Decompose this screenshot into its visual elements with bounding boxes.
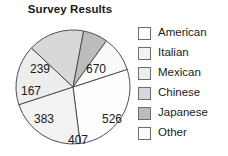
pie-slice-value-italian: 526: [102, 112, 122, 126]
legend-label-japanese: Japanese: [158, 107, 208, 119]
legend-swatch-mexican: [138, 67, 151, 80]
pie-slice-value-mexican: 407: [68, 133, 88, 147]
legend-label-chinese: Chinese: [158, 87, 200, 99]
legend-label-other: Other: [158, 127, 187, 139]
pie-slice-value-other: 239: [30, 62, 50, 76]
legend-swatch-other: [138, 127, 151, 140]
legend-swatch-japanese: [138, 107, 151, 120]
legend-item-other: Other: [138, 123, 228, 143]
legend-item-american: American: [138, 23, 228, 43]
legend-label-italian: Italian: [158, 47, 189, 59]
legend-item-italian: Italian: [138, 43, 228, 63]
chart-title: Survey Results: [0, 3, 140, 15]
legend-swatch-american: [138, 27, 151, 40]
chart-legend: AmericanItalianMexicanChineseJapaneseOth…: [138, 23, 228, 143]
legend-label-mexican: Mexican: [158, 67, 201, 79]
legend-label-american: American: [158, 27, 207, 39]
legend-item-japanese: Japanese: [138, 103, 228, 123]
pie-slice-value-chinese: 383: [34, 112, 54, 126]
pie-svg: 670526407383167239: [0, 16, 140, 156]
pie-plot-area: 670526407383167239: [0, 16, 140, 156]
legend-swatch-chinese: [138, 87, 151, 100]
pie-slice-value-japanese: 167: [21, 84, 41, 98]
pie-slice-value-american: 670: [86, 62, 106, 76]
legend-swatch-italian: [138, 47, 151, 60]
legend-item-mexican: Mexican: [138, 63, 228, 83]
pie-chart-figure: Survey Results 670526407383167239 Americ…: [0, 0, 228, 156]
legend-item-chinese: Chinese: [138, 83, 228, 103]
